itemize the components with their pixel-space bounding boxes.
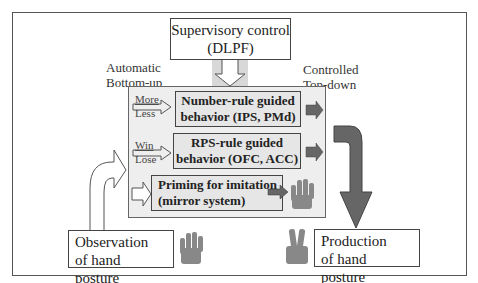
number-rule-box: Number-rule guided behavior (IPS, PMd) xyxy=(175,91,301,127)
output-arrow-icon xyxy=(305,143,325,161)
input-arrow-icon xyxy=(131,145,173,161)
priming-output-arrow-icon xyxy=(267,185,289,199)
processing-panel: More Less Number-rule guided behavior (I… xyxy=(128,86,326,218)
input-arrow-icon xyxy=(131,99,173,115)
bottom-up-curved-arrow-icon xyxy=(86,142,130,240)
observation-box: Observation of hand posture xyxy=(68,230,174,268)
rps-rule-box: RPS-rule guided behavior (OFC, ACC) xyxy=(173,133,301,169)
priming-box: Priming for imitation (mirror system) xyxy=(151,175,283,211)
priming-input-arrow-icon xyxy=(131,181,153,207)
supervisory-title: Supervisory control xyxy=(171,21,290,39)
top-down-hollow-arrow-icon xyxy=(212,60,252,88)
hand-scissors-icon xyxy=(284,228,310,266)
hand-paper-icon xyxy=(289,177,315,211)
top-down-curved-arrow-icon xyxy=(332,122,382,230)
production-box: Production of hand posture xyxy=(314,229,420,267)
output-arrow-icon xyxy=(305,101,325,119)
supervisory-subtitle: (DLPF) xyxy=(171,39,290,57)
hand-paper-icon xyxy=(178,230,204,266)
supervisory-control-box: Supervisory control (DLPF) xyxy=(170,18,291,60)
